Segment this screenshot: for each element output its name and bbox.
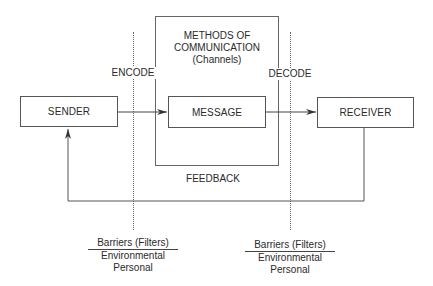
barriers-title: Barriers (Filters) <box>88 237 178 250</box>
barrier-item: Environmental <box>88 250 178 262</box>
feedback-label: FEEDBACK <box>178 173 248 185</box>
message-box: MESSAGE <box>168 96 266 128</box>
sender-box: SENDER <box>20 96 118 127</box>
message-label: MESSAGE <box>192 107 242 118</box>
barriers-title: Barriers (Filters) <box>245 239 335 252</box>
barrier-item: Environmental <box>245 252 335 264</box>
barriers-decode: Barriers (Filters) Environmental Persona… <box>245 239 335 276</box>
barrier-item: Personal <box>245 264 335 276</box>
barriers-encode: Barriers (Filters) Environmental Persona… <box>88 237 178 274</box>
receiver-label: RECEIVER <box>340 107 392 118</box>
connectors <box>0 0 433 286</box>
sender-label: SENDER <box>48 106 90 117</box>
barrier-item: Personal <box>88 262 178 274</box>
receiver-box: RECEIVER <box>317 97 414 128</box>
